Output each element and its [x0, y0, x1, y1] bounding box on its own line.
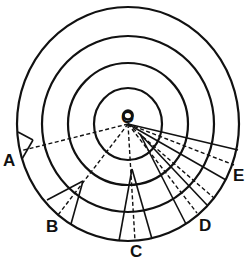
label-e: E	[233, 166, 244, 185]
label-b: B	[46, 217, 58, 236]
ray-c-wedge-2	[132, 169, 152, 239]
ray-d-wedge-2	[140, 134, 207, 205]
label-o: O	[121, 108, 134, 127]
concentric-circles-diagram: O A B C D E	[0, 0, 247, 269]
ray-a-wedge-1	[18, 132, 33, 140]
ray-a-dashed	[20, 124, 128, 151]
ray-b-wedge-2	[71, 181, 83, 224]
ray-c-wedge-1	[119, 169, 132, 241]
label-d: D	[199, 216, 211, 235]
ray-e-solid-2	[128, 124, 226, 180]
label-a: A	[3, 151, 15, 170]
label-c: C	[130, 242, 142, 261]
